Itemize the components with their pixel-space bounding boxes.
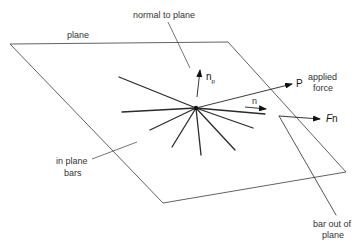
applied-force-symbol: P (296, 78, 303, 89)
plane-outline (10, 42, 346, 203)
bar (119, 77, 196, 108)
bar-out-label-line2: plane (322, 230, 344, 240)
diagram-canvas: np normal to plane plane P applied force… (0, 0, 364, 248)
applied-force-label-line1: applied (308, 72, 337, 82)
applied-force-label-line2: force (313, 83, 333, 93)
applied-force-arrow (196, 84, 292, 108)
force-fn-label: Fn (326, 113, 338, 124)
in-plane-bars-label-line1: in plane (56, 156, 88, 166)
direction-n-label: n (252, 96, 257, 106)
bar (122, 108, 196, 112)
force-fn-arrow (279, 116, 320, 119)
bar (196, 108, 201, 155)
bar-out-of-plane (279, 116, 336, 215)
in-plane-bars (119, 77, 265, 155)
normal-vector-label: np (206, 71, 216, 84)
bar-out-label-line1: bar out of (313, 219, 352, 229)
normal-to-plane-label: normal to plane (133, 10, 195, 20)
in-plane-bars-leader (92, 142, 137, 159)
plane-label: plane (67, 30, 89, 40)
in-plane-bars-label-line2: bars (64, 168, 82, 178)
normal-vector-arrow (197, 70, 200, 97)
normal-to-plane-leader (168, 22, 190, 68)
direction-n-arrow (245, 107, 266, 109)
